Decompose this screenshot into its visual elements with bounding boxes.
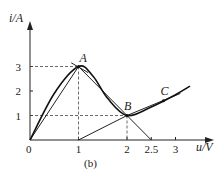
origin-label: 0 bbox=[26, 143, 32, 155]
y-tick-label: 1 bbox=[16, 110, 22, 122]
point-label-b: B bbox=[124, 99, 132, 113]
x-tick-label: 2 bbox=[124, 143, 130, 155]
y-axis-label: i/A bbox=[9, 11, 24, 25]
x-tick-label: 3 bbox=[173, 143, 179, 155]
point-label-c: C bbox=[160, 84, 169, 98]
line-B-to-2.5 bbox=[79, 67, 152, 141]
y-tick-label: 2 bbox=[16, 85, 22, 97]
point-marker-a bbox=[77, 65, 80, 68]
x-tick-label: 1 bbox=[76, 143, 82, 155]
chord-origin-A bbox=[30, 67, 79, 141]
point-marker-b bbox=[126, 114, 129, 117]
line-1-to-B bbox=[79, 116, 128, 141]
y-axis-arrow bbox=[27, 21, 33, 30]
point-label-a: A bbox=[79, 51, 88, 65]
y-tick-label: 3 bbox=[16, 61, 22, 73]
point-marker-c bbox=[162, 99, 165, 102]
figure-caption: (b) bbox=[84, 157, 97, 170]
x-axis-label: u/V bbox=[196, 140, 214, 154]
x-tick-label: 2.5 bbox=[144, 143, 158, 155]
chart: 122.53123 ABC u/V i/A 0 (b) bbox=[0, 0, 221, 176]
